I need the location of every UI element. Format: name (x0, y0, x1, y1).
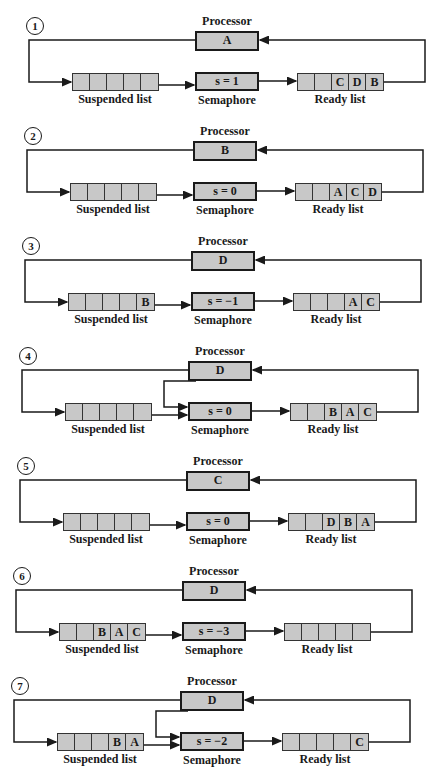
ready-list (284, 623, 371, 641)
semaphore-label: Semaphore (178, 423, 262, 438)
suspended-slot (86, 294, 103, 310)
semaphore-label: Semaphore (185, 93, 269, 108)
ready-slot (328, 294, 345, 310)
ready-slot: D (323, 514, 340, 530)
semaphore-box: s = −1 (191, 292, 255, 311)
ready-list: CDB (297, 73, 384, 91)
ready-slot (291, 404, 308, 420)
ready-slot (317, 734, 334, 750)
suspended-slot: C (128, 624, 145, 640)
suspended-slot (134, 404, 151, 420)
panel-step-7: 7ProcessorDs = −2SemaphoreBASuspended li… (0, 660, 437, 767)
suspended-slot (139, 184, 156, 200)
semaphore-box: s = 0 (186, 512, 250, 531)
semaphore-label: Semaphore (170, 753, 254, 767)
panel-step-5: 5ProcessorCs = 0SemaphoreSuspended listD… (0, 440, 437, 549)
suspended-list (72, 73, 159, 91)
suspended-slot (132, 514, 149, 530)
ready-list: AC (293, 293, 380, 311)
step-number-badge: 2 (24, 127, 42, 145)
ready-slot: C (362, 294, 379, 310)
panel-step-4: 4ProcessorDs = 0SemaphoreSuspended listB… (0, 330, 437, 439)
step-number-badge: 3 (22, 237, 40, 255)
ready-list: DBA (288, 513, 375, 531)
semaphore-box: s = 1 (195, 72, 259, 91)
ready-slot (300, 734, 317, 750)
suspended-list-label: Suspended list (55, 422, 161, 437)
ready-slot: A (357, 514, 374, 530)
panel-step-6: 6ProcessorDs = −3SemaphoreBACSuspended l… (0, 550, 437, 659)
suspended-slot (105, 184, 122, 200)
processor-label: Processor (188, 344, 252, 359)
suspended-list-label: Suspended list (47, 752, 153, 767)
suspended-slot (117, 404, 134, 420)
suspended-slot: A (126, 734, 143, 750)
suspended-slot (81, 514, 98, 530)
processor-box: D (182, 581, 246, 601)
semaphore-box: s = −3 (182, 622, 246, 641)
ready-slot: A (342, 404, 359, 420)
ready-slot (308, 404, 325, 420)
ready-list-label: Ready list (272, 752, 378, 767)
ready-list: ACD (295, 183, 382, 201)
ready-slot: C (332, 74, 349, 90)
suspended-list (70, 183, 157, 201)
suspended-list: B (68, 293, 155, 311)
semaphore-label: Semaphore (172, 643, 256, 658)
suspended-slot (124, 74, 141, 90)
ready-slot: B (325, 404, 342, 420)
ready-slot (315, 74, 332, 90)
suspended-slot (103, 294, 120, 310)
suspended-slot: B (137, 294, 154, 310)
suspended-slot (77, 624, 94, 640)
suspended-slot (115, 514, 132, 530)
suspended-list-label: Suspended list (60, 202, 166, 217)
ready-slot (313, 184, 330, 200)
ready-slot: D (349, 74, 366, 90)
semaphore-label: Semaphore (176, 533, 260, 548)
suspended-slot (66, 404, 83, 420)
processor-box: A (195, 31, 259, 51)
step-number-badge: 1 (26, 17, 44, 35)
ready-list: BAC (290, 403, 377, 421)
step-number-badge: 4 (19, 347, 37, 365)
step-number-badge: 7 (11, 677, 29, 695)
panel-step-2: 2ProcessorBs = 0SemaphoreSuspended listA… (0, 110, 437, 219)
processor-label: Processor (193, 124, 257, 139)
ready-slot (336, 624, 353, 640)
suspended-slot: A (111, 624, 128, 640)
panel-step-3: 3ProcessorDs = −1SemaphoreBSuspended lis… (0, 220, 437, 329)
suspended-slot (71, 184, 88, 200)
suspended-slot (88, 184, 105, 200)
ready-slot (302, 624, 319, 640)
ready-list-label: Ready list (285, 202, 391, 217)
processor-box: B (193, 141, 257, 161)
ready-slot (283, 734, 300, 750)
ready-slot: C (347, 184, 364, 200)
suspended-list-label: Suspended list (49, 642, 155, 657)
suspended-slot: B (94, 624, 111, 640)
ready-list-label: Ready list (274, 642, 380, 657)
suspended-slot (64, 514, 81, 530)
processor-label: Processor (182, 564, 246, 579)
processor-label: Processor (186, 454, 250, 469)
suspended-list: BA (57, 733, 144, 751)
ready-slot: C (359, 404, 376, 420)
suspended-list (65, 403, 152, 421)
semaphore-box: s = −2 (180, 732, 244, 751)
ready-list-label: Ready list (280, 422, 386, 437)
suspended-slot: B (109, 734, 126, 750)
ready-slot: A (330, 184, 347, 200)
ready-list: C (282, 733, 369, 751)
semaphore-box: s = 0 (193, 182, 257, 201)
suspended-slot (107, 74, 124, 90)
ready-slot: A (345, 294, 362, 310)
suspended-slot (75, 734, 92, 750)
ready-slot: D (364, 184, 381, 200)
suspended-slot (122, 184, 139, 200)
ready-slot (334, 734, 351, 750)
suspended-slot (58, 734, 75, 750)
processor-label: Processor (195, 14, 259, 29)
ready-slot (311, 294, 328, 310)
ready-slot: B (340, 514, 357, 530)
